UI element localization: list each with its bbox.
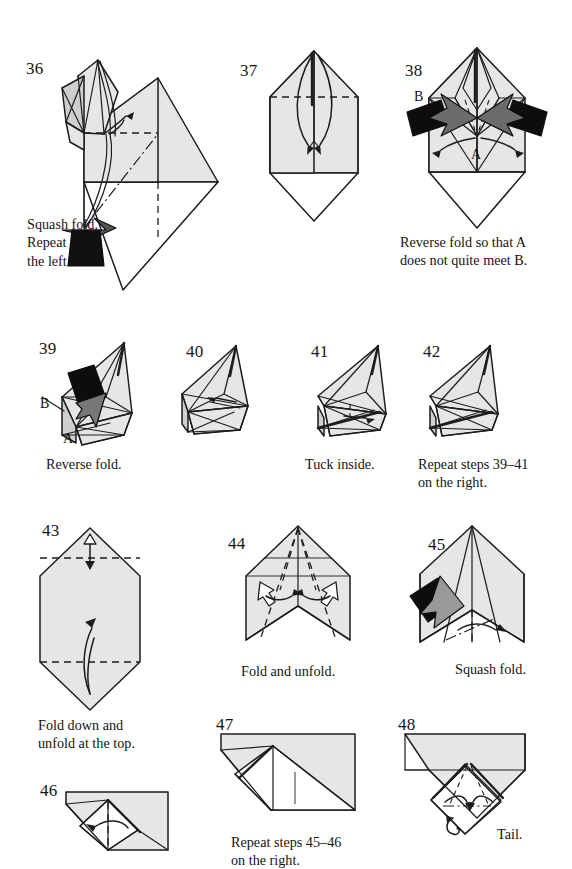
step-39-caption: Reverse fold.: [46, 455, 186, 473]
step-39-label-a: A: [63, 432, 73, 446]
step-45-diagram: [400, 518, 550, 658]
step-38-label-b: B: [414, 90, 423, 104]
step-46-diagram: [60, 788, 180, 858]
step-38-caption: Reverse fold so that A does not quite me…: [400, 233, 572, 270]
step-37-number: 37: [240, 62, 257, 79]
step-47-diagram: [215, 730, 365, 825]
step-38-number: 38: [405, 62, 422, 79]
step-41-caption: Tuck inside.: [305, 455, 425, 473]
step-36-number: 36: [26, 60, 43, 77]
step-45-number: 45: [428, 536, 445, 553]
step-39-label-b: B: [40, 397, 49, 411]
step-37-diagram: [250, 45, 380, 235]
origami-instruction-page: 36 Squash fold. Repeat on the left. 37: [0, 0, 572, 869]
step-47-caption: Repeat steps 45–46 on the right.: [231, 833, 396, 869]
step-44-number: 44: [228, 535, 245, 552]
step-48-caption: Tail.: [497, 825, 557, 843]
step-44-diagram: [230, 520, 370, 650]
step-41-number: 41: [311, 343, 328, 360]
step-36-caption: Squash fold. Repeat on the left.: [27, 215, 147, 270]
step-48-number: 48: [398, 716, 415, 733]
step-42-caption: Repeat steps 39–41 on the right.: [418, 455, 572, 492]
step-43-caption: Fold down and unfold at the top.: [38, 716, 188, 753]
step-45-caption: Squash fold.: [455, 660, 572, 678]
step-38-label-a: A: [471, 148, 481, 162]
step-40-number: 40: [186, 343, 203, 360]
step-44-caption: Fold and unfold.: [241, 662, 401, 680]
step-46-number: 46: [40, 782, 57, 799]
step-43-diagram: [30, 518, 180, 718]
step-43-number: 43: [42, 522, 59, 539]
step-39-number: 39: [39, 340, 56, 357]
step-47-number: 47: [216, 716, 233, 733]
step-42-number: 42: [423, 343, 440, 360]
